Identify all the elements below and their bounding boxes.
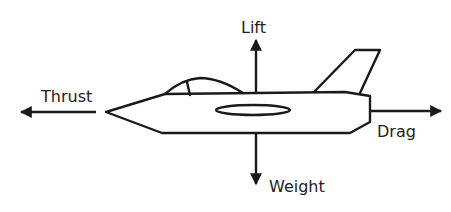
- cockpit-canopy: [165, 78, 243, 94]
- airplane: [106, 50, 380, 133]
- thrust-label: Thrust: [40, 87, 92, 106]
- weight-label: Weight: [269, 177, 325, 196]
- fuselage: [106, 92, 370, 133]
- forces-diagram: Lift Weight Thrust Drag: [0, 0, 451, 212]
- lift-label: Lift: [241, 18, 266, 37]
- tail-fin: [314, 50, 380, 93]
- drag-label: Drag: [377, 122, 416, 141]
